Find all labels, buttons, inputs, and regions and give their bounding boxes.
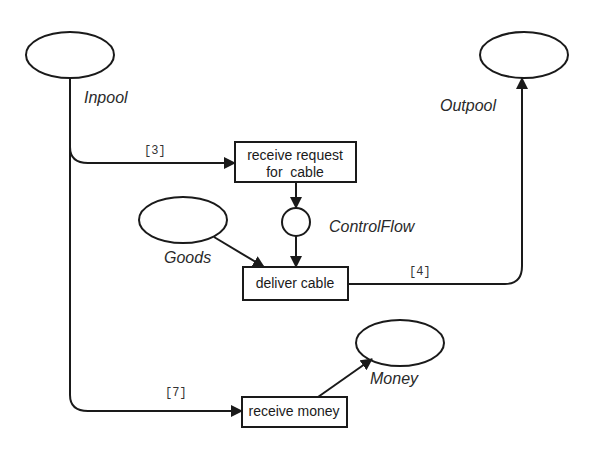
place-money[interactable] <box>356 320 444 366</box>
label-goods: Goods <box>164 249 211 266</box>
arc-goods-to-deliver <box>214 237 264 267</box>
label-receive-money: receive money <box>248 403 339 419</box>
arc-label-4: [4] <box>409 265 431 279</box>
label-money: Money <box>370 370 419 387</box>
arc-label-7: [7] <box>165 386 187 400</box>
label-receive-request-line1: receive request <box>247 147 343 163</box>
label-outpool: Outpool <box>440 97 496 114</box>
place-goods[interactable] <box>139 197 227 243</box>
label-receive-request-line2: for cable <box>266 164 324 180</box>
place-outpool[interactable] <box>480 32 568 78</box>
label-deliver-cable: deliver cable <box>256 275 335 291</box>
place-controlflow[interactable] <box>282 208 310 236</box>
place-inpool[interactable] <box>26 32 114 78</box>
label-controlflow: ControlFlow <box>329 218 416 235</box>
label-inpool: Inpool <box>84 89 128 106</box>
petri-net-diagram: Inpool Outpool Goods ControlFlow Money r… <box>0 0 590 457</box>
arc-label-3: [3] <box>144 144 166 158</box>
arc-receive-money-to-money <box>318 359 372 397</box>
arc-inpool-to-money <box>70 147 242 411</box>
